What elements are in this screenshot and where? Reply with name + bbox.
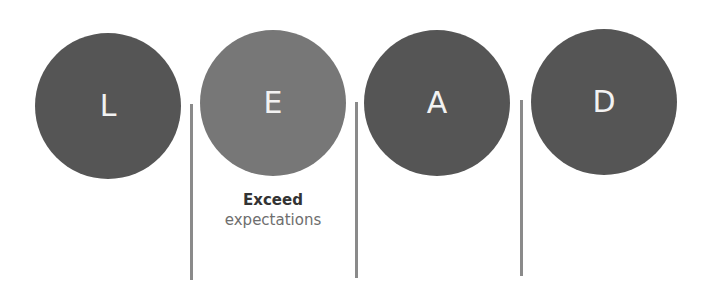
divider-line-2	[355, 102, 358, 278]
circle-d: D	[531, 29, 677, 175]
circle-e: E	[200, 30, 346, 176]
caption-e-title: Exceed	[193, 190, 353, 210]
caption-e: Exceed expectations	[193, 190, 353, 230]
circle-a: A	[364, 30, 510, 176]
circle-l: L	[35, 33, 181, 179]
circle-letter-d: D	[592, 87, 615, 117]
circle-letter-a: A	[427, 88, 448, 118]
circle-letter-l: L	[100, 91, 117, 121]
divider-line-3	[520, 100, 523, 276]
caption-e-subtitle: expectations	[193, 210, 353, 230]
circle-letter-e: E	[264, 88, 283, 118]
